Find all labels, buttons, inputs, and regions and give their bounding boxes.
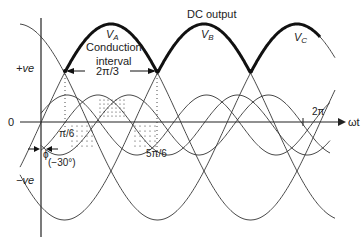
phase-b-label: VB (201, 29, 214, 42)
three-phase-rectifier-diagram: DC output VA VB VC Conduction interval 2… (0, 0, 361, 237)
conduction-label: Conduction (86, 42, 142, 53)
neg-ve-label: −ve (16, 175, 34, 186)
x-axis-arrow-icon (338, 118, 346, 126)
dc-output-label: DC output (187, 9, 237, 20)
phi-arrow-right-icon (34, 146, 40, 152)
pi6-label: π/6 (59, 129, 74, 139)
line-current-curves (41, 95, 330, 155)
phi-value: (−30°) (48, 158, 76, 168)
zero-label: 0 (8, 117, 14, 128)
phase-c-label: VC (294, 32, 307, 45)
conduction-value: 2π/3 (96, 66, 119, 77)
pos-ve-label: +ve (16, 63, 34, 74)
five-pi6-label: 5π/6 (146, 149, 167, 159)
omega-t-label: ωt (348, 117, 360, 128)
two-pi-label: 2π (312, 107, 324, 117)
